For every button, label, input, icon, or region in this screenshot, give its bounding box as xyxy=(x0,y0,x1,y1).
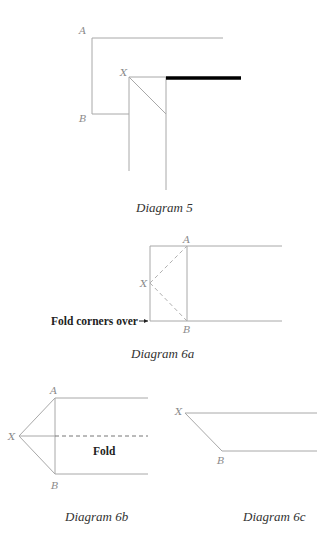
fold-diagrams: A B X Diagram 5 A B X Fold corners over … xyxy=(0,0,323,533)
fold-note: Fold xyxy=(93,445,116,457)
fold-corners-note: Fold corners over xyxy=(51,315,138,327)
fold-diagonal xyxy=(185,413,222,451)
point-b-label: B xyxy=(78,113,86,124)
diagram-6c: X B Diagram 6c xyxy=(174,406,317,524)
point-a-label: A xyxy=(49,385,57,396)
point-b-label: B xyxy=(216,455,224,466)
diagram-6b: A B X Fold Diagram 6b xyxy=(7,385,148,524)
point-a-label: A xyxy=(182,234,190,245)
point-x-label: X xyxy=(139,278,148,289)
fold-diagonal xyxy=(129,77,166,114)
point-a-label: A xyxy=(78,25,86,36)
arrow-icon xyxy=(144,319,148,323)
point-x-label: X xyxy=(7,431,16,442)
caption-diagram-6a: Diagram 6a xyxy=(130,346,195,361)
point-b-label: B xyxy=(50,480,58,491)
diagram-5: A B X Diagram 5 xyxy=(78,25,241,215)
lower-fold-dashed xyxy=(150,283,187,321)
lower-point-line xyxy=(19,436,55,474)
upper-fold-dashed xyxy=(150,246,187,283)
diagram-6a: A B X Fold corners over Diagram 6a xyxy=(51,234,282,361)
point-b-label: B xyxy=(182,324,190,335)
point-x-label: X xyxy=(119,67,128,78)
caption-diagram-6c: Diagram 6c xyxy=(242,509,306,524)
caption-diagram-6b: Diagram 6b xyxy=(64,509,129,524)
point-x-label: X xyxy=(174,406,183,417)
caption-diagram-5: Diagram 5 xyxy=(135,200,193,215)
upper-point-line xyxy=(19,398,55,436)
